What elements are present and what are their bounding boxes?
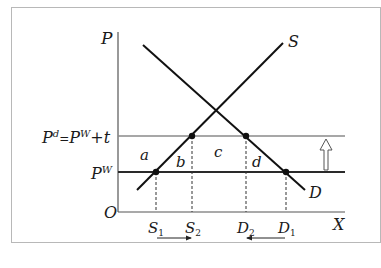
price-rise-arrow-icon <box>320 139 332 170</box>
point-d1 <box>283 169 289 175</box>
quantity-s1-label: S1 <box>148 219 164 238</box>
area-b-label: b <box>176 153 186 171</box>
quantity-d1-label: D1 <box>277 219 296 238</box>
area-c-label: c <box>214 143 223 161</box>
world-price-label: PW <box>90 164 113 183</box>
area-a-label: a <box>140 146 149 164</box>
domestic-price-label: Pd=PW+t <box>41 128 111 147</box>
quantity-d2-label: D2 <box>236 219 255 238</box>
point-d2 <box>243 133 249 139</box>
y-axis-label: P <box>100 28 113 48</box>
x-axis-label: X <box>331 215 345 234</box>
origin-label: O <box>104 203 117 222</box>
area-d-label: d <box>252 153 262 171</box>
supply-label: S <box>288 32 299 51</box>
demand-curve <box>143 45 305 190</box>
demand-label: D <box>308 183 322 202</box>
point-s2 <box>189 133 195 139</box>
quantity-s2-label: S2 <box>185 219 201 238</box>
point-s1 <box>153 169 159 175</box>
